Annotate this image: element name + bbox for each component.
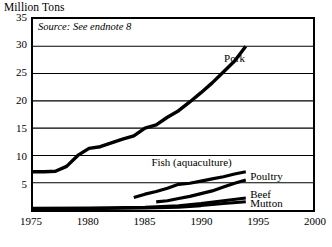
chart-figure: Million Tons 5101520253035 Source: See e…: [0, 0, 332, 247]
series-label-fish-aquaculture: Fish (aquaculture): [151, 156, 231, 168]
plot-area: [31, 17, 315, 212]
y-axis-tick-labels: 5101520253035: [0, 0, 29, 247]
y-tick-5: 5: [22, 179, 28, 190]
x-tick-2000: 2000: [304, 215, 326, 227]
y-tick-15: 15: [16, 123, 27, 134]
series-line-mutton: [33, 202, 246, 209]
x-tick-1985: 1985: [134, 215, 156, 227]
series-line-pork: [33, 46, 246, 172]
series-label-poultry: Poultry: [250, 170, 282, 182]
y-tick-20: 20: [16, 95, 27, 106]
x-tick-1980: 1980: [77, 215, 99, 227]
y-tick-25: 25: [16, 67, 27, 78]
series-label-mutton: Mutton: [250, 197, 282, 209]
x-tick-1975: 1975: [20, 215, 42, 227]
series-label-pork: Pork: [224, 52, 245, 64]
y-tick-30: 30: [16, 39, 27, 50]
x-tick-1995: 1995: [247, 215, 269, 227]
x-tick-1990: 1990: [190, 215, 212, 227]
x-axis-tick-labels: 197519801985199019952000: [0, 215, 332, 235]
y-tick-10: 10: [16, 151, 27, 162]
y-tick-35: 35: [16, 12, 27, 23]
source-note: Source: See endnote 8: [38, 21, 131, 33]
